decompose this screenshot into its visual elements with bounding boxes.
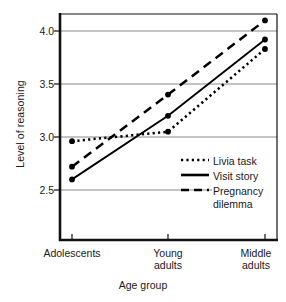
- data-point: [262, 46, 268, 52]
- data-point: [262, 37, 268, 43]
- data-point: [165, 92, 171, 98]
- x-tick-label-adolescents: Adolescents: [22, 247, 122, 259]
- data-point: [165, 113, 171, 119]
- data-point: [262, 18, 268, 24]
- legend-label-visit-story: Visit story: [213, 170, 258, 183]
- legend-label-pregnancy-dilemma: Pregnancy dilemma: [213, 185, 263, 210]
- x-tick-label-middle-adults: Middle adults: [226, 247, 286, 271]
- line-chart-figure: Level of reasoning 4.0 3.5 3.0 2.5 Adole…: [0, 0, 286, 302]
- y-tick-label-3.5: 3.5: [26, 79, 54, 89]
- y-tick-label-3.0: 3.0: [26, 132, 54, 142]
- y-tick-label-4.0: 4.0: [26, 26, 54, 36]
- x-tick-label-young-adults: Young adults: [128, 247, 208, 271]
- data-point: [69, 164, 75, 170]
- data-point: [165, 129, 171, 135]
- x-axis-title: Age group: [0, 279, 286, 291]
- legend-swatches: [181, 160, 209, 190]
- y-tick-label-2.5: 2.5: [26, 185, 54, 195]
- data-point: [69, 177, 75, 183]
- data-point: [69, 138, 75, 144]
- legend-label-livia-task: Livia task: [213, 155, 257, 168]
